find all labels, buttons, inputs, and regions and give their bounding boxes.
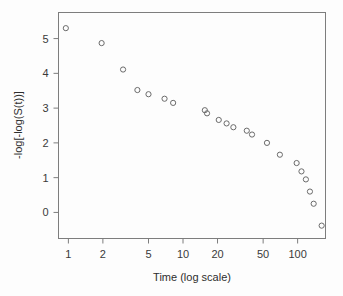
x-tick-label: 10: [177, 248, 189, 260]
x-tick-label: 100: [288, 248, 306, 260]
x-tick-label: 1: [65, 248, 71, 260]
y-tick-label: 3: [42, 102, 48, 114]
y-tick-label: 1: [42, 172, 48, 184]
y-tick-label: 2: [42, 137, 48, 149]
figure-container: 125102050100 012345 Time (log scale) -lo…: [0, 0, 343, 296]
x-tick-label: 50: [257, 248, 269, 260]
x-tick-label: 20: [211, 248, 223, 260]
scatter-plot: 125102050100 012345 Time (log scale) -lo…: [0, 0, 343, 296]
x-tick-label: 5: [145, 248, 151, 260]
x-tick-label: 2: [100, 248, 106, 260]
y-axis-label: -log[-log(S(t))]: [12, 91, 24, 159]
x-axis-label: Time (log scale): [153, 271, 231, 283]
y-tick-label: 0: [42, 206, 48, 218]
y-tick-label: 5: [42, 33, 48, 45]
y-tick-label: 4: [42, 67, 48, 79]
